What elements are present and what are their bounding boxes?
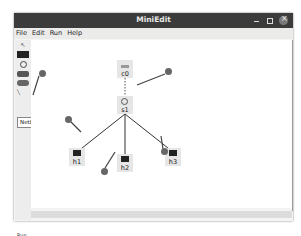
arrow-2	[71, 122, 81, 132]
node-label: h2	[117, 164, 133, 172]
annotation-badge-5	[165, 68, 172, 75]
legacy-switch-icon[interactable]	[17, 71, 29, 77]
link-s1-h1	[77, 114, 125, 152]
arrow-5	[137, 74, 165, 85]
node-s1[interactable]: s1	[117, 96, 133, 114]
links-layer	[31, 40, 292, 208]
host-icon	[169, 150, 177, 156]
horizontal-scrollbar[interactable]	[31, 211, 292, 218]
node-c0[interactable]: c0	[117, 60, 133, 78]
node-label: h1	[69, 158, 85, 166]
router-icon[interactable]	[17, 80, 29, 86]
annotation-badge-1	[39, 70, 46, 77]
host-icon	[73, 150, 81, 156]
close-button[interactable]	[279, 16, 288, 25]
minimize-button[interactable]	[252, 16, 261, 25]
title-bar: MiniEdit	[14, 13, 293, 28]
node-h1[interactable]: h1	[69, 148, 85, 166]
menu-file[interactable]: File	[16, 28, 27, 39]
node-label: c0	[117, 70, 133, 78]
node-h2[interactable]: h2	[117, 154, 133, 172]
controller-icon	[121, 65, 129, 68]
host-icon	[121, 156, 129, 162]
node-label: s1	[117, 106, 133, 114]
maximize-button[interactable]	[265, 16, 274, 25]
topology-canvas[interactable]: c0 s1 h1 h2 h3	[31, 40, 292, 208]
annotation-badge-3	[101, 168, 108, 175]
menu-help[interactable]: Help	[67, 28, 82, 39]
vertical-scrollbar[interactable]	[292, 40, 293, 211]
arrow-1	[33, 76, 39, 95]
switch-icon	[121, 98, 128, 105]
switch-icon[interactable]	[17, 61, 29, 69]
run-button[interactable]: Run	[17, 232, 27, 236]
annotation-badge-4	[161, 148, 168, 155]
menu-run[interactable]: Run	[50, 28, 62, 39]
miniedit-window: MiniEdit File Edit Run Help ↖ ╲ NetLink …	[14, 13, 293, 221]
node-label: h3	[165, 158, 181, 166]
annotation-badge-2	[65, 116, 72, 123]
host-icon[interactable]	[17, 51, 29, 58]
arrow-3	[105, 152, 115, 168]
tool-palette: ↖ ╲ NetLink Run Stop	[15, 40, 31, 220]
menu-edit[interactable]: Edit	[32, 28, 45, 39]
cursor-icon[interactable]: ↖	[17, 41, 29, 49]
netlink-icon[interactable]: ╲	[17, 89, 29, 95]
menu-bar: File Edit Run Help	[14, 28, 293, 39]
link-s1-h3	[125, 114, 173, 152]
